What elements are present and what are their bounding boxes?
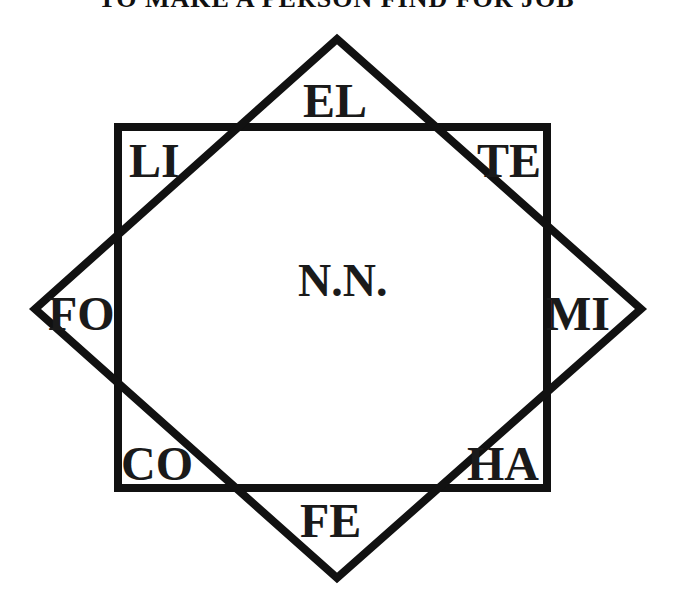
label-top: EL xyxy=(303,77,367,125)
label-right: MI xyxy=(546,290,610,338)
label-top-right: TE xyxy=(477,137,541,185)
label-left: FO xyxy=(48,290,115,338)
label-bottom-right: HA xyxy=(467,440,539,488)
label-bottom: FE xyxy=(300,497,361,545)
label-top-left: LI xyxy=(129,137,180,185)
center-label: N.N. xyxy=(298,258,387,304)
label-bottom-left: CO xyxy=(121,440,193,488)
